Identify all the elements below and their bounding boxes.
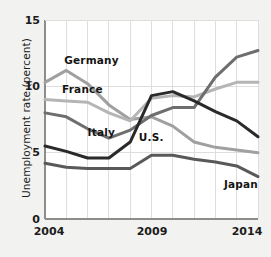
unemployment-rate-line-chart: Unemployment rate (percent) 15 10 5 0 20…: [0, 0, 271, 257]
series-label-italy: Italy: [88, 126, 115, 138]
series-label-japan: Japan: [224, 178, 258, 190]
series-label-france: France: [62, 83, 103, 95]
series-label-us: U.S.: [139, 131, 164, 143]
series-label-germany: Germany: [64, 54, 119, 66]
plot-area: [0, 0, 271, 257]
